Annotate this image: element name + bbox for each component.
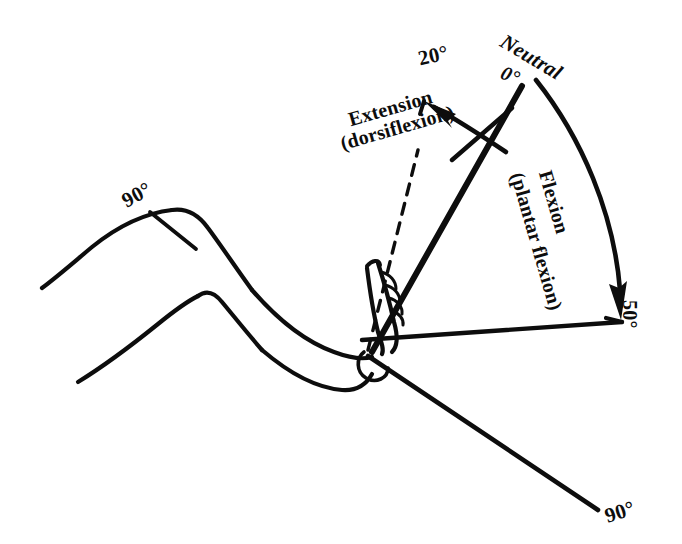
foot-tip-contour <box>367 261 380 266</box>
knee-lower-apex <box>198 293 262 350</box>
ankle-rom-figure: Neutral 0° 20° Extension (dorsiflexion) … <box>0 0 682 544</box>
horizontal-baseline <box>362 322 622 340</box>
figure-linework <box>0 0 682 544</box>
hip-axis-diagonal <box>368 356 598 510</box>
knee-angle-tick <box>150 212 196 249</box>
thigh-lower-contour <box>78 296 198 382</box>
thigh-upper-contour <box>42 210 172 288</box>
shin-anterior-contour <box>252 290 372 358</box>
knee-upper-apex <box>172 210 252 290</box>
label-flexion-degrees: 50° <box>618 300 640 329</box>
